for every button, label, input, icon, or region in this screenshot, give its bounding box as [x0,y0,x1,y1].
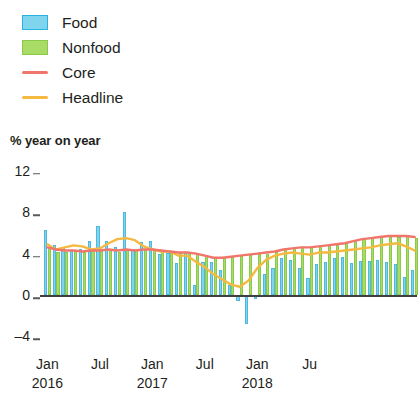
x-axis-tick-label: Jul [91,356,109,372]
x-axis-tick-label: Ju [302,356,317,372]
x-axis-year-label: 2016 [32,375,63,391]
line-headline [47,238,414,287]
x-axis-tick-label: Jul [196,356,214,372]
x-axis-year-label: 2017 [137,375,168,391]
x-axis-tick-label: Jan [246,356,269,372]
x-axis-tick-label: Jan [36,356,59,372]
x-axis-year-label: 2018 [242,375,273,391]
x-axis-tick-label: Jan [141,356,164,372]
